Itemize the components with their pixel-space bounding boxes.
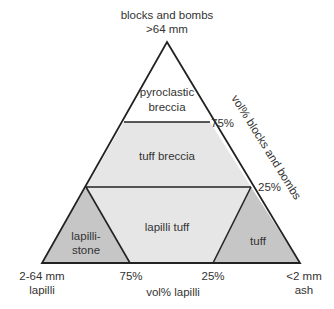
vertex-bottom-right-label-1: <2 mm <box>286 270 321 282</box>
field-label-stone: stone <box>72 244 100 256</box>
vertex-bottom-left-label-2: lapilli <box>29 284 55 296</box>
field-label-pyroclastic: pyroclastic <box>140 86 195 98</box>
vertex-bottom-left-label-1: 2-64 mm <box>19 270 64 282</box>
vertex-top-label-2: >64 mm <box>146 23 188 35</box>
bottom-tick-25: 25% <box>201 270 224 282</box>
bottom-axis-label: vol% lapilli <box>146 286 200 298</box>
vertex-bottom-right-label-2: ash <box>295 284 314 296</box>
right-tick-75: 75% <box>211 117 234 129</box>
right-tick-25: 25% <box>258 181 281 193</box>
field-label-breccia: breccia <box>148 101 186 113</box>
field-label-tuff-breccia: tuff breccia <box>139 150 196 162</box>
field-label-lapilli-: lapilli- <box>71 230 101 242</box>
field-label-tuff: tuff <box>250 235 267 247</box>
field-label-lapilli-tuff: lapilli tuff <box>145 221 190 233</box>
ternary-diagram: blocks and bombs >64 mm 2-64 mm lapilli … <box>0 0 334 309</box>
vertex-top-label-1: blocks and bombs <box>121 9 214 21</box>
bottom-tick-75: 75% <box>119 270 142 282</box>
